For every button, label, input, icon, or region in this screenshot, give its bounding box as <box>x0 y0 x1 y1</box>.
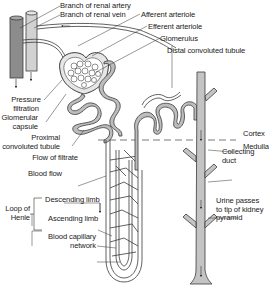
label-efferent-arteriole: Efferent arteriole <box>148 23 202 32</box>
label-cortex: Cortex <box>243 130 265 139</box>
label-renal-vein: Branch of renal vein <box>60 11 126 20</box>
label-pressure-line2: filtration <box>6 105 46 114</box>
label-glomerulus: Glomerulus <box>160 35 198 44</box>
label-proximal-tubule: Proximal convoluted tubule <box>0 134 60 151</box>
label-loop-line2: Henle <box>2 214 30 223</box>
label-afferent-arteriole: Afferent arteriole <box>141 11 195 20</box>
label-ascending-limb: Ascending limb <box>48 215 98 224</box>
label-proximal-line2: convoluted tubule <box>0 143 60 152</box>
label-urine-line3: pyramid <box>216 214 263 223</box>
label-blood-flow: Blood flow <box>20 170 62 179</box>
label-glomerular-capsule: Glomerular capsule <box>0 114 38 131</box>
label-pressure-filtration: Pressure filtration <box>6 96 46 113</box>
renal-vein <box>26 11 37 80</box>
renal-artery <box>10 16 23 87</box>
label-loop-of-henle: Loop of Henle <box>2 205 30 222</box>
label-collecting-duct: Collecting duct <box>222 148 254 165</box>
distal-convoluted-tubule <box>135 92 197 170</box>
label-capsule-line2: capsule <box>0 123 38 132</box>
label-urine-passes: Urine passes to tip of kidney pyramid <box>216 197 263 223</box>
blood-capillary-network <box>110 150 138 256</box>
loop-bracket <box>30 197 44 231</box>
label-distal-convoluted-tubule: Distal convoluted tubule <box>167 47 245 56</box>
label-collecting-line2: duct <box>222 157 254 166</box>
label-capillary-line2: network <box>30 242 96 251</box>
label-flow-of-filtrate: Flow of filtrate <box>18 154 78 163</box>
label-blood-capillary-network: Blood capillary network <box>30 233 96 250</box>
label-descending-limb: Descending limb <box>45 196 100 205</box>
